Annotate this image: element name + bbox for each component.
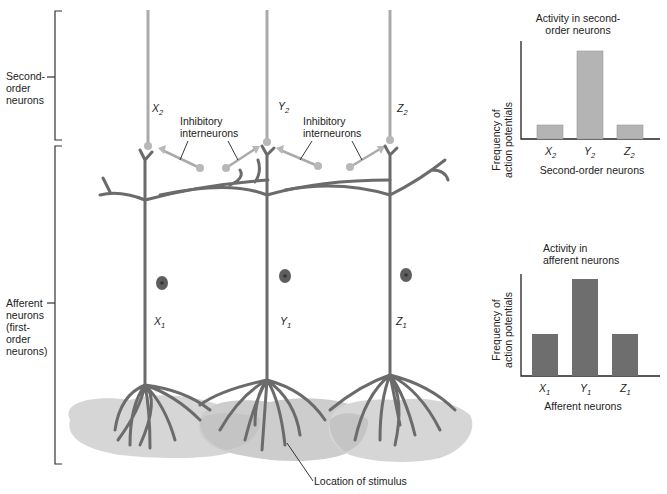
svg-text:Y1: Y1 xyxy=(280,315,291,330)
svg-text:Frequency of: Frequency of xyxy=(490,109,502,170)
svg-text:X1: X1 xyxy=(538,382,550,397)
svg-text:Activity in second-: Activity in second- xyxy=(536,12,621,24)
svg-text:X2: X2 xyxy=(544,145,557,160)
svg-text:order: order xyxy=(6,82,31,94)
left-labels: Second- order neurons Afferent neurons (… xyxy=(6,70,47,357)
svg-text:(first-: (first- xyxy=(6,321,30,333)
svg-text:Activity in: Activity in xyxy=(543,242,588,254)
svg-text:action potentials: action potentials xyxy=(502,292,514,368)
bar-x1 xyxy=(532,334,558,376)
svg-text:order: order xyxy=(6,333,31,345)
x-axis-label: Afferent neurons xyxy=(544,400,621,412)
svg-text:Second-order neurons: Second-order neurons xyxy=(540,164,644,176)
chart-afferent: Activity in afferent neurons Frequency o… xyxy=(490,242,660,412)
svg-text:Second-: Second- xyxy=(6,70,46,82)
svg-text:Inhibitory: Inhibitory xyxy=(303,115,346,127)
y-axis-label: Frequency of xyxy=(490,109,502,170)
svg-text:Frequency of: Frequency of xyxy=(490,299,502,360)
bar-z2 xyxy=(617,125,643,139)
y-axis-label: Frequency of xyxy=(490,299,502,360)
chart-title: Activity in second- xyxy=(536,12,621,24)
svg-text:Inhibitory: Inhibitory xyxy=(180,115,223,127)
svg-text:neurons: neurons xyxy=(6,94,44,106)
svg-text:Z2: Z2 xyxy=(623,145,635,160)
interneuron-labels: Inhibitory interneurons Inhibitory inter… xyxy=(180,115,362,160)
svg-text:Afferent neurons: Afferent neurons xyxy=(544,400,621,412)
brackets xyxy=(47,11,62,464)
afferent-label: Afferent xyxy=(6,297,43,309)
svg-text:Z1: Z1 xyxy=(395,315,407,330)
cell-bodies xyxy=(156,268,412,290)
svg-text:Z2: Z2 xyxy=(396,102,408,117)
svg-text:Afferent: Afferent xyxy=(6,297,43,309)
bar-y2 xyxy=(577,51,603,139)
svg-text:action potentials: action potentials xyxy=(502,102,514,178)
svg-text:interneurons: interneurons xyxy=(180,127,238,139)
neuron-diagram: Second- order neurons Afferent neurons (… xyxy=(0,0,667,494)
bar-x2 xyxy=(537,125,563,139)
svg-text:Y1: Y1 xyxy=(580,382,591,397)
svg-text:neurons: neurons xyxy=(6,309,44,321)
svg-text:afferent neurons: afferent neurons xyxy=(543,254,619,266)
svg-text:Z1: Z1 xyxy=(619,382,631,397)
svg-text:neurons): neurons) xyxy=(6,345,47,357)
svg-text:Location of stimulus: Location of stimulus xyxy=(314,475,407,487)
chart-title: Activity in xyxy=(543,242,588,254)
receptive-fields xyxy=(68,395,472,462)
svg-text:X2: X2 xyxy=(151,102,164,117)
svg-text:X1: X1 xyxy=(153,315,165,330)
svg-text:Y2: Y2 xyxy=(584,145,596,160)
bar-y1 xyxy=(572,279,598,376)
svg-text:Y2: Y2 xyxy=(278,100,290,115)
svg-text:interneurons: interneurons xyxy=(303,127,361,139)
x-axis-label: Second-order neurons xyxy=(540,164,644,176)
svg-text:order neurons: order neurons xyxy=(545,24,610,36)
chart-second-order: Activity in second- order neurons Freque… xyxy=(490,12,660,178)
second-order-label-1: Second- xyxy=(6,70,46,82)
bar-z1 xyxy=(612,334,638,376)
